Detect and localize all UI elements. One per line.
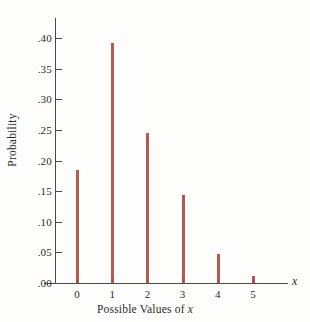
y-axis-tick-label: .30 xyxy=(22,94,52,105)
y-axis-tick-label-text: .40 xyxy=(26,33,52,44)
bar xyxy=(146,133,149,283)
x-axis-tick-label: 3 xyxy=(173,288,193,300)
y-axis-tick-label-text: .35 xyxy=(26,64,52,75)
y-axis-tick-label: .15 xyxy=(22,186,52,197)
y-axis-tick-label-text: .30 xyxy=(26,94,52,105)
probability-distribution-chart: .00.05.10.15.20.25.30.35.40 012345 Proba… xyxy=(0,0,310,322)
y-axis-tick xyxy=(56,69,62,70)
y-axis-line xyxy=(55,18,56,283)
y-axis-tick xyxy=(56,222,62,223)
y-axis-tick-label: .35 xyxy=(22,64,52,75)
x-axis-tick xyxy=(77,279,78,284)
x-axis-tick-label: 1 xyxy=(102,288,122,300)
x-axis-tick xyxy=(218,279,219,284)
x-axis-tick-label: 4 xyxy=(208,288,228,300)
y-axis-tick xyxy=(56,191,62,192)
y-axis-tick xyxy=(56,161,62,162)
y-axis-tick xyxy=(56,99,62,100)
x-axis-tick-label: 5 xyxy=(243,288,263,300)
x-axis-line xyxy=(44,283,288,284)
x-axis-tick xyxy=(183,279,184,284)
bar xyxy=(182,195,185,283)
y-axis-tick-label-text: .15 xyxy=(26,186,52,197)
y-axis-tick-label: .05 xyxy=(22,247,52,258)
y-axis-tick xyxy=(56,130,62,131)
y-axis-tick-label: .20 xyxy=(22,156,52,167)
y-axis-tick-label: .25 xyxy=(22,125,52,136)
y-axis-tick-label-text: .05 xyxy=(26,247,52,258)
y-axis-tick-label-text: .20 xyxy=(26,156,52,167)
x-axis-variable-label: x xyxy=(292,275,297,287)
x-axis-title-variable: x xyxy=(188,303,193,315)
x-axis-tick xyxy=(147,279,148,284)
y-axis-tick-label: .40 xyxy=(22,33,52,44)
y-axis-title: Probability xyxy=(6,92,18,188)
bar xyxy=(111,43,114,283)
y-axis-tick-label-text: .10 xyxy=(26,217,52,228)
y-axis-tick-label-text: .00 xyxy=(26,278,52,289)
y-axis-tick-label: .00 xyxy=(22,278,52,289)
y-axis-tick xyxy=(56,283,62,284)
x-axis-tick xyxy=(112,279,113,284)
y-axis-tick xyxy=(56,252,62,253)
x-axis-tick-label: 0 xyxy=(67,288,87,300)
y-axis-tick xyxy=(56,38,62,39)
bar xyxy=(76,170,79,283)
y-axis-tick-label: .10 xyxy=(22,217,52,228)
x-axis-tick-label: 2 xyxy=(137,288,157,300)
y-axis-tick-label-text: .25 xyxy=(26,125,52,136)
x-axis-tick xyxy=(253,279,254,284)
x-axis-title: Possible Values of x xyxy=(45,303,245,315)
